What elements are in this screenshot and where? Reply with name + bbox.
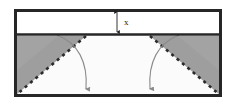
upper-band-fill xyxy=(14,9,222,34)
technical-diagram: x xyxy=(0,0,238,105)
diagram-root: x xyxy=(0,0,238,105)
dimension-label-x: x xyxy=(124,17,129,27)
